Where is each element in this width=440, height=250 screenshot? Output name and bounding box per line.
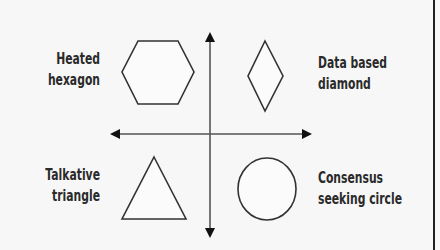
quadrant-diagram	[0, 0, 440, 250]
circle-shape	[238, 158, 296, 220]
label-heated-hexagon: Heated hexagon	[14, 49, 100, 91]
diamond-shape	[248, 41, 283, 111]
label-talkative-triangle: Talkative triangle	[14, 165, 100, 207]
right-border-line	[433, 0, 435, 250]
triangle-shape	[122, 157, 186, 219]
hexagon-shape	[122, 41, 194, 104]
label-consensus-seeking-circle: Consensus seeking circle	[318, 168, 440, 210]
label-data-based-diamond: Data based diamond	[318, 53, 433, 95]
